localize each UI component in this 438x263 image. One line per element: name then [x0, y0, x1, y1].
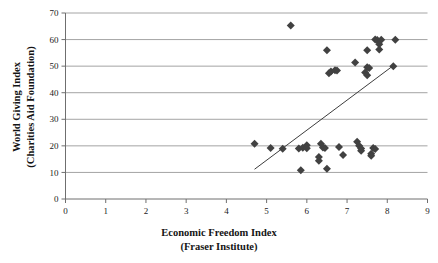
data-markers-group	[251, 21, 400, 174]
x-tick-label-4: 4	[224, 206, 229, 216]
y-tick-label-30: 30	[50, 114, 60, 124]
data-point	[335, 143, 343, 151]
x-tick-labels-group: 0123456789	[63, 206, 430, 216]
x-tick-label-7: 7	[345, 206, 350, 216]
data-point	[363, 46, 371, 54]
scatter-chart-figure: 0123456789 010203040506070 Economic Free…	[0, 0, 438, 263]
x-tick-label-6: 6	[305, 206, 310, 216]
data-point	[251, 140, 259, 148]
y-axis-subtitle: (Charities Aid Foundation)	[25, 46, 37, 168]
data-point	[351, 58, 359, 66]
data-point	[323, 46, 331, 54]
x-tick-label-1: 1	[103, 206, 108, 216]
y-tick-label-50: 50	[50, 61, 60, 71]
x-tick-label-0: 0	[63, 206, 68, 216]
x-tick-label-3: 3	[184, 206, 189, 216]
x-tick-label-5: 5	[264, 206, 269, 216]
x-axis-title: Economic Freedom Index	[161, 227, 277, 238]
x-tick-label-2: 2	[144, 206, 149, 216]
data-point	[391, 36, 399, 44]
data-point	[375, 45, 383, 53]
data-point	[287, 21, 295, 29]
x-axis-subtitle: (Fraser Institute)	[180, 241, 258, 253]
y-tick-label-0: 0	[54, 194, 59, 204]
y-tick-label-10: 10	[50, 168, 60, 178]
y-tick-labels-group: 010203040506070	[50, 8, 60, 204]
data-point	[297, 166, 305, 174]
x-tick-label-8: 8	[385, 206, 390, 216]
y-tick-label-20: 20	[50, 141, 60, 151]
y-tick-marks-group	[62, 13, 66, 199]
data-point	[323, 165, 331, 173]
x-tick-marks-group	[66, 199, 428, 203]
data-point	[267, 144, 275, 152]
x-tick-label-9: 9	[425, 206, 430, 216]
y-axis-title: World Giving Index	[11, 61, 22, 152]
data-point	[339, 151, 347, 159]
y-tick-label-40: 40	[50, 88, 60, 98]
y-tick-label-60: 60	[50, 35, 60, 45]
y-tick-label-70: 70	[50, 8, 60, 18]
chart-canvas: 0123456789 010203040506070 Economic Free…	[0, 0, 438, 263]
